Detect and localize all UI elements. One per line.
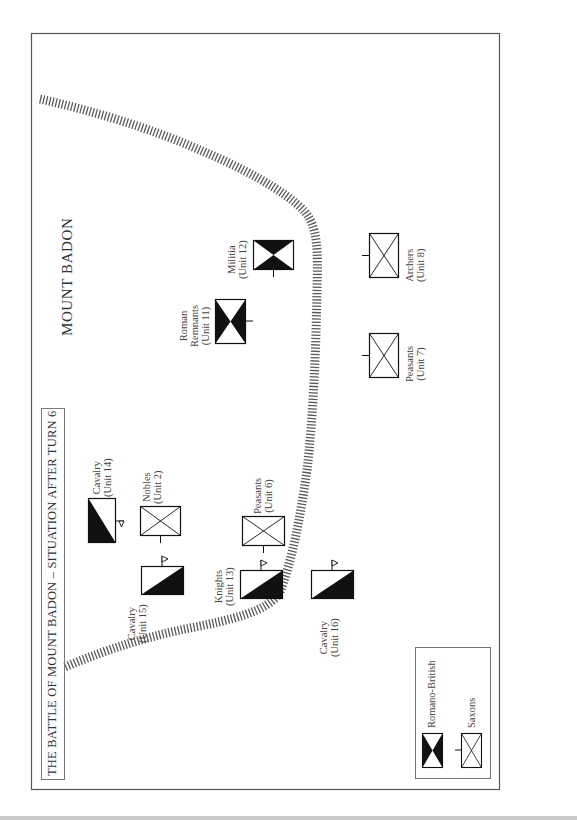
unit-label-peasants-6: Peasants (Unit 6): [252, 478, 274, 514]
unit-label-cavalry-14: Cavalry (Unit 14): [91, 458, 113, 497]
legend-label-romano-british: Romano-British: [426, 660, 437, 728]
unit-label-name-2: Remnants: [189, 305, 200, 347]
unit-label-name: Archers: [404, 248, 415, 282]
unit-label-number: (Unit 2): [152, 470, 163, 504]
unit-label-name: Cavalry: [318, 618, 329, 657]
legend-label-saxons: Saxons: [466, 698, 477, 728]
unit-label-number: (Unit 13): [224, 567, 235, 606]
unit-label-name: Roman: [178, 305, 189, 347]
unit-label-number: (Unit 6): [263, 478, 274, 514]
map-title: THE BATTLE OF MOUNT BADON – SITUATION AF…: [46, 411, 59, 776]
battle-map: [0, 0, 577, 820]
unit-label-number: (Unit 8): [415, 248, 426, 282]
unit-label-peasants-7: Peasants (Unit 7): [404, 346, 426, 382]
unit-label-archers-8: Archers (Unit 8): [404, 248, 426, 282]
unit-label-name: Peasants: [252, 478, 263, 514]
unit-label-name: Militia: [226, 240, 237, 279]
unit-label-name: Knights: [213, 567, 224, 606]
unit-label-roman-remnants-11: Roman Remnants (Unit 11): [178, 305, 211, 347]
unit-label-number: (Unit 15): [137, 604, 148, 643]
unit-label-name: Cavalry: [126, 604, 137, 643]
unit-label-cavalry-16: Cavalry (Unit 16): [318, 618, 340, 657]
unit-label-number: (Unit 12): [237, 240, 248, 279]
unit-label-name: Peasants: [404, 346, 415, 382]
unit-label-cavalry-15: Cavalry (Unit 15): [126, 604, 148, 643]
unit-label-name: Nobles: [141, 470, 152, 504]
unit-label-number: (Unit 16): [329, 618, 340, 657]
romano-british-symbol: [423, 734, 443, 768]
unit-label-knights-13: Knights (Unit 13): [213, 567, 235, 606]
unit-label-number: (Unit 14): [102, 458, 113, 497]
terrain-label-mount-badon: MOUNT BADON: [60, 218, 76, 336]
unit-label-name: Cavalry: [91, 458, 102, 497]
unit-label-militia-12: Militia (Unit 12): [226, 240, 248, 279]
bottom-edge-strip: [0, 816, 577, 820]
unit-label-number: (Unit 7): [415, 346, 426, 382]
unit-label-nobles-2: Nobles (Unit 2): [141, 470, 163, 504]
unit-label-number: (Unit 11): [200, 305, 211, 347]
